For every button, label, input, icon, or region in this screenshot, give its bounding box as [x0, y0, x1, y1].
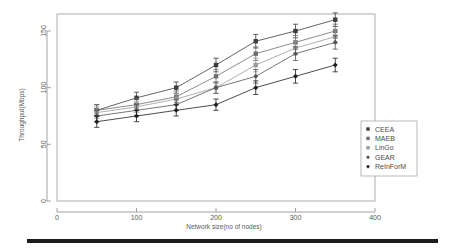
legend-item-label: LinGo [375, 144, 394, 151]
data-point-marker [366, 137, 369, 140]
legend-item-label: ReInForM [375, 163, 406, 170]
footer-rule [27, 239, 438, 243]
y-axis-title: Throughput(Mbps) [18, 88, 26, 141]
y-tick-label: 100 [40, 82, 47, 94]
x-axis-title: Network size(no of nodes) [186, 223, 262, 231]
data-point-marker [366, 127, 369, 130]
throughput-line-chart: 050100150 0100200300400 CEEAMAEBLinGoGEA… [0, 0, 459, 250]
data-point-marker [174, 85, 178, 89]
x-tick-label: 400 [369, 214, 381, 221]
data-point-marker [214, 74, 218, 78]
chart-legend: CEEAMAEBLinGoGEARReInForM [361, 121, 417, 176]
data-point-marker [366, 146, 369, 149]
data-point-marker [254, 39, 258, 43]
chart-figure: 050100150 0100200300400 CEEAMAEBLinGoGEA… [0, 0, 459, 250]
y-tick-label: 0 [40, 199, 47, 203]
data-point-marker [254, 51, 258, 55]
y-tick-label: 50 [40, 140, 47, 148]
data-point-marker [293, 29, 297, 33]
data-point-marker [333, 17, 337, 21]
data-point-marker [214, 63, 218, 67]
x-tick-label: 100 [131, 214, 143, 221]
x-tick-label: 200 [210, 214, 222, 221]
data-point-marker [254, 63, 258, 67]
x-tick-label: 0 [55, 214, 59, 221]
legend-item-label: MAEB [375, 135, 395, 142]
legend-item-label: GEAR [375, 154, 395, 161]
y-tick-label: 150 [40, 25, 47, 37]
legend-item-label: CEEA [375, 126, 394, 133]
x-tick-label: 300 [290, 214, 302, 221]
